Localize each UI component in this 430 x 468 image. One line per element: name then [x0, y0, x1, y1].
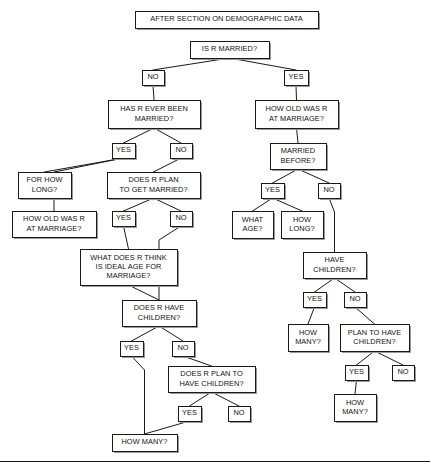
edge-q_ideal_age-to-q_does_have_kids [129, 285, 160, 300]
node-label: MANY? [342, 407, 368, 416]
node-a_before_yes: YES [262, 184, 287, 201]
edge-a_planhave_yes-to-q_how_many_r2 [355, 380, 357, 394]
edge-q_age_at_marriage_r-to-q_married_before [297, 128, 299, 143]
node-label: PLAN TO HAVE [348, 328, 402, 337]
node-q_how_long: HOWLONG? [282, 212, 326, 241]
edge-a_plan_yes-to-q_ideal_age [124, 226, 129, 249]
node-label: YES [116, 213, 131, 222]
node-label: AFTER SECTION ON DEMOGRAPHIC DATA [150, 14, 303, 23]
node-label: NO [177, 343, 188, 352]
node-label: WHAT DOES R THINK [90, 253, 166, 262]
node-label: TO GET MARRIED? [119, 185, 187, 194]
node-label: DOES R PLAN [128, 175, 178, 184]
node-label: IS IDEAL AGE FOR [96, 262, 162, 271]
node-label: CHILDREN? [138, 313, 180, 322]
node-label: NO [175, 145, 186, 154]
node-q_age_at_marriage_r: HOW OLD WAS RAT MARRIAGE? [256, 101, 341, 131]
edge-a_kids_yes-to-q_how_many_left [132, 356, 145, 434]
node-label: YES [182, 408, 197, 417]
edge-a_married_no-to-q_ever_married [153, 85, 154, 100]
node-label: HOW [299, 328, 317, 337]
node-a_plan_no: NO [171, 212, 195, 229]
node-label: NO [147, 72, 158, 81]
node-label: HAVE CHILDREN? [179, 379, 243, 388]
node-label: HOW OLD WAS R [23, 214, 85, 223]
node-label: HAVE [325, 255, 345, 264]
node-q_ideal_age: WHAT DOES R THINKIS IDEAL AGE FORMARRIAG… [81, 250, 180, 288]
node-label: LONG? [289, 224, 314, 233]
node-a_doesplan_yes: YES [179, 407, 204, 424]
node-label: MARRIED [281, 146, 315, 155]
node-label: DOES R PLAN TO [180, 369, 243, 378]
edge-q_ever_married-to-a_ever_yes [124, 128, 155, 143]
node-a_have_no: NO [345, 293, 369, 310]
node-label: YES [289, 72, 304, 81]
node-a_have_yes: YES [304, 293, 329, 310]
node-a_planhave_no: NO [393, 366, 417, 383]
node-label: HOW [346, 398, 364, 407]
node-label: NO [233, 408, 244, 417]
node-q_what_age: WHATAGE? [233, 212, 276, 241]
node-label: AGE? [243, 224, 263, 233]
node-label: HAS R EVER BEEN [120, 104, 188, 113]
edge-q_married_before-to-a_before_no [298, 169, 329, 183]
node-q_how_many_r1: HOWMANY? [289, 325, 331, 354]
edge-q_ever_married-to-a_ever_no [154, 128, 181, 143]
node-label: AT MARRIAGE? [269, 114, 324, 123]
edge-q_does_plan_kids-to-a_doesplan_no [212, 392, 240, 406]
node-a_married_no: NO [143, 71, 167, 88]
node-a_married_yes: YES [285, 71, 311, 88]
node-label: NO [397, 367, 408, 376]
node-label: HOW OLD WAS R [266, 104, 328, 113]
edge-a_have_no-to-q_plan_have_kids_r [355, 307, 375, 324]
node-label: FOR HOW [26, 175, 62, 184]
node-q_married_before: MARRIEDBEFORE? [271, 144, 329, 172]
node-a_kids_no: NO [173, 342, 197, 359]
node-q_ever_married: HAS R EVER BEENMARRIED? [109, 101, 203, 131]
node-q_for_how_long: FOR HOWLONG? [19, 173, 74, 201]
node-label: MARRIED? [135, 114, 174, 123]
node-q_plan_have_kids_r: PLAN TO HAVECHILDREN? [341, 325, 412, 354]
node-label: AT MARRIAGE? [27, 224, 82, 233]
edge-q_have_children_r-to-a_have_no [335, 278, 356, 292]
node-a_before_no: NO [319, 184, 343, 201]
node-label: YES [349, 367, 364, 376]
node-label: MARRIAGE? [107, 271, 151, 280]
node-label: YES [265, 185, 280, 194]
node-q_how_many_left: HOW MANY? [113, 435, 180, 454]
edge-q_plan_have_kids_r-to-a_planhave_no [375, 351, 404, 365]
node-label: YES [307, 294, 322, 303]
node-q_does_have_kids: DOES R HAVECHILDREN? [123, 301, 199, 329]
node-q_plan_get_married: DOES R PLANTO GET MARRIED? [108, 173, 203, 201]
node-label: CHILDREN? [313, 265, 355, 274]
node-label: IS R MARRIED? [202, 44, 257, 53]
node-a_plan_yes: YES [113, 212, 138, 229]
node-label: NO [323, 185, 334, 194]
node-a_ever_yes: YES [113, 144, 138, 161]
edge-q_have_children_r-to-a_have_yes [315, 278, 335, 292]
node-q_have_children_r: HAVECHILDREN? [304, 253, 369, 281]
edge-q_plan_have_kids_r-to-a_planhave_yes [357, 351, 375, 365]
node-label: NO [175, 213, 186, 222]
edge-q_does_have_kids-to-a_kids_no [159, 326, 183, 341]
node-a_ever_no: NO [171, 144, 195, 161]
flowchart-diagram: AFTER SECTION ON DEMOGRAPHIC DATAIS R MA… [0, 0, 430, 468]
edge-a_have_yes-to-q_how_many_r1 [308, 307, 315, 324]
node-q_does_plan_kids: DOES R PLAN TOHAVE CHILDREN? [169, 367, 258, 395]
edge-a_married_yes-to-q_age_at_marriage_r [296, 85, 297, 100]
node-header: AFTER SECTION ON DEMOGRAPHIC DATA [136, 12, 321, 31]
node-a_kids_yes: YES [121, 342, 146, 359]
node-q_is_married: IS R MARRIED? [191, 42, 272, 61]
node-label: YES [124, 343, 139, 352]
edge-q_does_have_kids-to-a_kids_yes [132, 326, 160, 341]
node-label: HOW MANY? [121, 437, 167, 446]
node-q_how_old_marriage: HOW OLD WAS RAT MARRIAGE? [13, 212, 99, 240]
node-a_planhave_yes: YES [346, 366, 371, 383]
node-label: CHILDREN? [353, 337, 395, 346]
node-label: MANY? [295, 337, 321, 346]
node-q_how_many_r2: HOWMANY? [335, 395, 379, 424]
node-label: LONG? [32, 185, 57, 194]
edge-q_married_before-to-a_before_yes [273, 169, 299, 183]
edge-a_ever_no-to-q_plan_get_married [154, 158, 182, 172]
node-label: WHAT [242, 215, 264, 224]
